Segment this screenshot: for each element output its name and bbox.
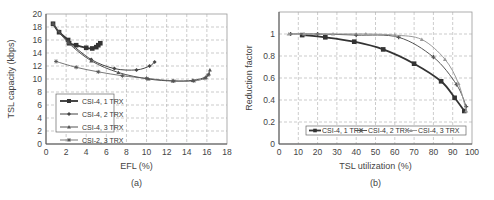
y-tick-label: 1 [270,29,275,39]
x-tick-label: 100 [465,147,479,157]
square-marker [313,129,317,133]
legend-label: CSI-4, 3 TRX [82,124,124,131]
square-marker [381,47,386,52]
star-marker [67,138,71,142]
x-tick-label: 50 [371,147,381,157]
x-tick-label: 14 [182,147,192,157]
x-tick-label: 12 [162,147,172,157]
square-marker [84,46,89,51]
x-tick-label: 60 [390,147,400,157]
x-tick-label: 2 [64,147,69,157]
x-tick-label: 0 [277,147,282,157]
x-tick-label: 90 [448,147,458,157]
square-marker [90,46,95,51]
square-marker [323,35,328,40]
figure: 02468101214161802468101214161820EFL (%)T… [0,0,494,200]
x-tick-label: 6 [104,147,109,157]
star-marker [145,76,149,80]
subfigure-label: (b) [370,178,381,188]
y-tick-label: 6 [37,100,42,110]
x-axis-label: TSL utilization (%) [339,161,412,171]
x-tick-label: 16 [202,147,212,157]
y-tick-label: 0.8 [263,51,275,61]
y-tick-label: 10 [33,74,43,84]
square-marker [452,96,457,101]
y-tick-label: 18 [33,22,43,32]
y-tick-label: 0.2 [263,117,275,127]
square-marker [67,99,71,103]
x-axis-label: EFL (%) [120,161,153,171]
square-marker [352,39,357,44]
y-tick-label: 0.6 [263,73,275,83]
star-marker [206,73,210,77]
square-marker [439,79,444,84]
x-tick-label: 80 [429,147,439,157]
y-axis-label: TSL capacity (kbps) [6,39,16,118]
y-tick-label: 0 [37,139,42,149]
chart-a-tsl-capacity-vs-efl: 02468101214161802468101214161820EFL (%)T… [6,9,232,188]
chart-b-reduction-factor-vs-utilization: 010203040506070809010000.20.40.60.81TSL … [244,12,479,188]
square-marker [412,61,417,66]
legend: CSI-4, 1 TRXCSI-4, 2 TRXCSI-4, 3 TRX [306,126,466,135]
legend-label: CSI-2, 3 TRX [82,137,124,144]
x-tick-label: 40 [351,147,361,157]
y-tick-label: 14 [33,48,43,58]
y-tick-label: 4 [37,113,42,123]
y-tick-label: 20 [33,9,43,19]
x-tick-label: 70 [409,147,419,157]
legend-label: CSI-4, 1 TRX [82,98,124,105]
x-tick-label: 10 [142,147,152,157]
x-tick-label: 18 [222,147,232,157]
star-marker [96,70,100,74]
star-marker [203,76,207,80]
x-tick-label: 0 [44,147,49,157]
x-tick-label: 4 [84,147,89,157]
x-tick-label: 30 [332,147,342,157]
subfigure-label: (a) [131,178,142,188]
y-tick-label: 8 [37,87,42,97]
y-tick-label: 0.4 [263,95,275,105]
x-tick-label: 20 [313,147,323,157]
legend-label: CSI-4, 2 TRX [82,111,124,118]
y-tick-label: 16 [33,35,43,45]
y-tick-label: 12 [33,61,43,71]
y-axis-label: Reduction factor [244,45,254,111]
y-tick-label: 0 [270,139,275,149]
x-tick-label: 8 [124,147,129,157]
legend-label: CSI-4, 3 TRX [418,127,460,134]
y-tick-label: 2 [37,126,42,136]
x-tick-label: 10 [294,147,304,157]
square-marker [98,41,103,46]
legend-label: CSI-4, 2 TRX [368,127,410,134]
